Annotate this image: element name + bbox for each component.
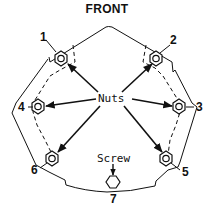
nuts-arrows bbox=[46, 64, 172, 152]
nut-5 bbox=[160, 151, 172, 166]
nut-1 bbox=[55, 51, 67, 66]
callout-3: 3 bbox=[196, 100, 203, 114]
callout-1: 1 bbox=[40, 30, 47, 44]
screw-label: Screw bbox=[97, 152, 130, 165]
nut-3 bbox=[173, 99, 185, 114]
callout-2: 2 bbox=[170, 33, 177, 47]
callout-4: 4 bbox=[18, 100, 25, 114]
nuts-label: Nuts bbox=[98, 92, 125, 105]
screw-7 bbox=[106, 176, 120, 188]
callout-6: 6 bbox=[31, 163, 38, 177]
housing-diagram: Nuts Screw 1 2 3 4 5 6 7 bbox=[0, 0, 214, 209]
nut-6 bbox=[46, 151, 58, 166]
callout-5: 5 bbox=[182, 165, 189, 179]
callout-7: 7 bbox=[110, 192, 117, 206]
nut-2 bbox=[150, 51, 162, 66]
nut-4 bbox=[32, 99, 44, 114]
